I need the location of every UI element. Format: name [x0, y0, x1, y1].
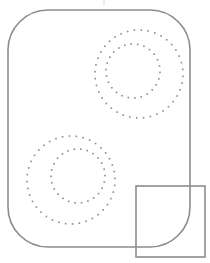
ring-dot [106, 75, 108, 77]
ring-dot [112, 164, 114, 166]
ring-dot [114, 36, 116, 38]
ring-dot [81, 202, 83, 204]
ring-dot [100, 51, 102, 53]
ring-dot [65, 223, 67, 225]
ring-dot [130, 43, 132, 45]
ring-dot [155, 84, 157, 86]
ring-dot [168, 106, 170, 108]
ring-dot [67, 150, 69, 152]
ring-dot [97, 157, 99, 159]
ring-dot [55, 138, 57, 140]
ring-dot [69, 135, 71, 137]
upper-right-outer-ring [94, 29, 183, 118]
ring-dot [62, 153, 64, 155]
ring-dot [105, 69, 107, 71]
ring-dot [28, 167, 30, 169]
ring-dot [109, 41, 111, 43]
ring-dot [113, 171, 115, 173]
ring-dot [107, 204, 109, 206]
ring-dot [29, 194, 31, 196]
ring-dot [182, 76, 184, 78]
ring-dot [74, 202, 76, 204]
ring-dot [95, 143, 97, 145]
dot-ring-group [26, 29, 184, 225]
ring-dot [159, 65, 161, 67]
ring-dot [116, 92, 118, 94]
ring-dot [104, 181, 106, 183]
ring-dot [118, 47, 120, 49]
ring-dot [129, 116, 131, 118]
ring-dot [52, 219, 54, 221]
ring-dot [159, 72, 161, 74]
ring-dot [32, 201, 34, 203]
ring-dot [87, 200, 89, 202]
figure-canvas [0, 0, 210, 263]
ring-dot [62, 198, 64, 200]
ring-dot [92, 153, 94, 155]
ring-dot [30, 161, 32, 163]
ring-dot [141, 29, 143, 31]
ring-dot [68, 201, 70, 203]
ring-dot [114, 185, 116, 187]
ring-dot [154, 32, 156, 34]
lower-left-inner-ring [50, 148, 106, 203]
ring-dot [176, 95, 178, 97]
ring-dot [58, 222, 60, 224]
ring-dot [146, 93, 148, 95]
ring-dot [76, 136, 78, 138]
ring-dot [106, 62, 108, 64]
ring-dot [113, 51, 115, 53]
ring-dot [171, 44, 173, 46]
ring-dot [108, 81, 110, 83]
ring-dot [94, 71, 96, 73]
ring-dot [101, 97, 103, 99]
ring-dot [182, 69, 184, 71]
ring-dot [96, 85, 98, 87]
upper-right-inner-ring [105, 43, 161, 98]
ring-dot [122, 114, 124, 116]
ring-dot [57, 193, 59, 195]
ring-dot [105, 152, 107, 154]
ring-dot [150, 116, 152, 118]
ring-dot [53, 163, 55, 165]
ring-dot [106, 103, 108, 105]
ring-dot [104, 46, 106, 48]
rounded-rectangle [8, 10, 190, 247]
ring-dot [89, 139, 91, 141]
ring-dot [86, 150, 88, 152]
ring-dot [53, 188, 55, 190]
ring-dot [104, 175, 106, 177]
ring-dot [98, 193, 100, 195]
ring-dot [95, 64, 97, 66]
ring-dot [94, 78, 96, 80]
ring-dot [181, 62, 183, 64]
ring-dot [102, 209, 104, 211]
ring-dot [34, 155, 36, 157]
ring-dot [43, 145, 45, 147]
ring-dot [101, 162, 103, 164]
ring-dot [51, 182, 53, 184]
ring-dot [50, 176, 52, 178]
ring-dot [128, 97, 130, 99]
ring-dot [101, 187, 103, 189]
ring-dot [27, 188, 29, 190]
ring-dot [134, 29, 136, 31]
ring-dot [100, 147, 102, 149]
ring-dot [103, 168, 105, 170]
ring-dot [98, 91, 100, 93]
ring-dot [26, 181, 28, 183]
ring-dot [80, 148, 82, 150]
ring-dot [121, 95, 123, 97]
ring-dot [179, 89, 181, 91]
ring-dot [158, 78, 160, 80]
ring-dot [166, 39, 168, 41]
ring-dot [114, 178, 116, 180]
ring-dot [57, 158, 59, 160]
figure-svg [0, 0, 210, 263]
ring-dot [97, 57, 99, 59]
ring-dot [151, 89, 153, 91]
ring-dot [38, 149, 40, 151]
ring-dot [97, 214, 99, 216]
ring-dot [92, 218, 94, 220]
ring-dot [137, 44, 139, 46]
